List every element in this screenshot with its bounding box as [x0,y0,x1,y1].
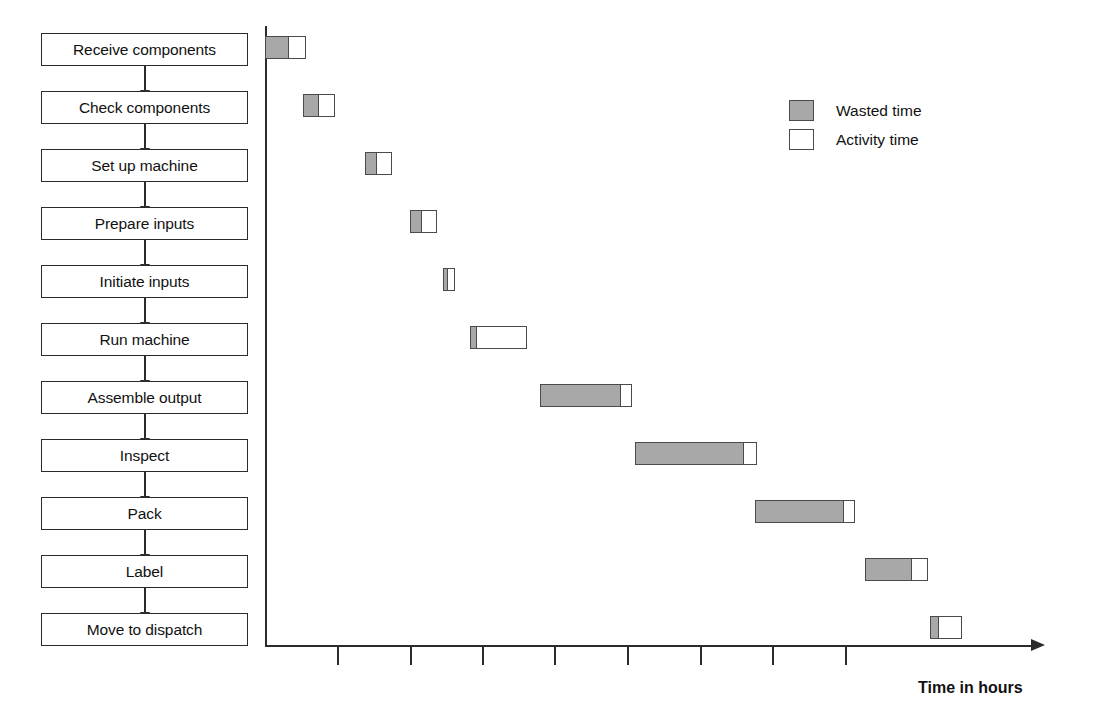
flow-arrow-down-icon [144,588,146,613]
gantt-process-chart: Receive componentsCheck componentsSet up… [0,0,1095,728]
gantt-bar [443,268,455,291]
process-step-label: Receive components [73,41,216,59]
gantt-bar-wasted-segment [540,384,622,407]
gantt-bar [755,500,855,523]
process-step-box[interactable]: Set up machine [41,149,248,182]
gantt-bar-wasted-segment [865,558,913,581]
gantt-bar [930,616,962,639]
gantt-bar [365,152,392,175]
x-axis-title: Time in hours [918,679,1023,697]
process-step-box[interactable]: Pack [41,497,248,530]
process-step-box[interactable]: Inspect [41,439,248,472]
gantt-bar-wasted-segment [635,442,745,465]
legend-label-activity: Activity time [836,131,919,149]
process-step-label: Move to dispatch [87,621,203,639]
chart-legend: Wasted time Activity time [789,96,922,154]
legend-label-wasted: Wasted time [836,102,922,120]
x-axis-tick [554,646,556,665]
process-step-box[interactable]: Run machine [41,323,248,356]
process-step-box[interactable]: Move to dispatch [41,613,248,646]
process-step-box[interactable]: Receive components [41,33,248,66]
process-step-label: Set up machine [91,157,197,175]
flow-arrow-down-icon [144,356,146,381]
process-step-label: Assemble output [88,389,202,407]
gantt-bar-activity-segment [447,268,455,291]
gantt-bar-activity-segment [938,616,962,639]
gantt-bar [303,94,335,117]
process-step-box[interactable]: Check components [41,91,248,124]
flow-arrow-down-icon [144,298,146,323]
process-step-label: Label [126,563,163,581]
x-axis-tick [410,646,412,665]
process-step-box[interactable]: Initiate inputs [41,265,248,298]
x-axis-arrowhead [1031,639,1045,651]
process-step-box[interactable]: Prepare inputs [41,207,248,240]
x-axis-tick [700,646,702,665]
gantt-bar-activity-segment [743,442,757,465]
y-axis-line [265,26,267,647]
gantt-bar [635,442,757,465]
gantt-bar [865,558,928,581]
gantt-bar-activity-segment [843,500,855,523]
flow-arrow-down-icon [144,66,146,91]
flow-arrow-down-icon [144,414,146,439]
process-step-label: Run machine [99,331,189,349]
process-step-label: Initiate inputs [100,273,190,291]
gantt-bar-activity-segment [288,36,306,59]
process-step-box[interactable]: Assemble output [41,381,248,414]
process-step-label: Prepare inputs [95,215,194,233]
flow-arrow-down-icon [144,472,146,497]
gantt-bar-wasted-segment [265,36,290,59]
flow-arrow-down-icon [144,124,146,149]
x-axis-tick [482,646,484,665]
gantt-bar [540,384,632,407]
process-step-label: Pack [127,505,161,523]
x-axis-tick [772,646,774,665]
gantt-bar-activity-segment [421,210,437,233]
x-axis-tick [337,646,339,665]
gantt-bar-activity-segment [620,384,632,407]
legend-swatch-wasted-icon [789,100,814,121]
flow-arrow-down-icon [144,530,146,555]
gantt-bar [265,36,306,59]
process-step-label: Inspect [120,447,169,465]
legend-row-wasted: Wasted time [789,96,922,125]
process-step-label: Check components [79,99,210,117]
gantt-bar [410,210,437,233]
legend-swatch-activity-icon [789,129,814,150]
gantt-bar-activity-segment [318,94,335,117]
gantt-bar [470,326,527,349]
gantt-bar-activity-segment [911,558,928,581]
x-axis-tick [627,646,629,665]
gantt-bar-activity-segment [476,326,527,349]
flow-arrow-down-icon [144,182,146,207]
x-axis-line [265,645,1035,647]
x-axis-tick [845,646,847,665]
flow-arrow-down-icon [144,240,146,265]
legend-row-activity: Activity time [789,125,922,154]
process-step-box[interactable]: Label [41,555,248,588]
gantt-bar-wasted-segment [755,500,845,523]
gantt-bar-activity-segment [376,152,392,175]
